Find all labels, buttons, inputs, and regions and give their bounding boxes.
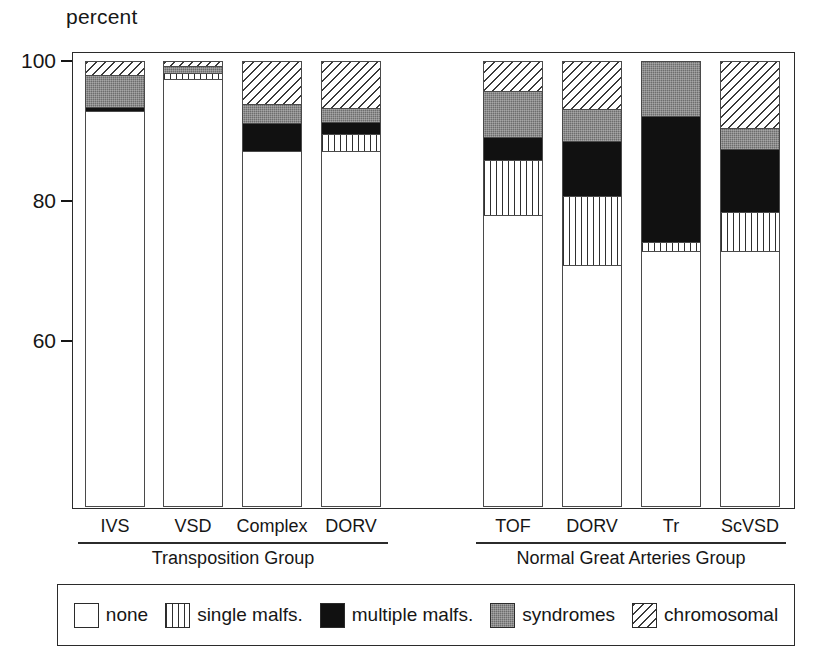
bar-segment-syndromes: [563, 109, 621, 141]
category-label-scvsd-7: ScVSD: [708, 516, 792, 537]
bar-segment-none: [563, 265, 621, 506]
bar-segment-syndromes: [243, 104, 301, 123]
legend-swatch-multiple-icon: [320, 603, 345, 628]
y-axis-title: percent: [66, 5, 137, 29]
legend-label: none: [106, 604, 148, 626]
bar-segment-none: [642, 251, 700, 506]
bar-segment-chromosomal: [322, 62, 380, 108]
legend-swatch-syndromes-icon: [490, 603, 515, 628]
y-tick-mark: [61, 340, 72, 342]
legend-label: chromosomal: [664, 604, 778, 626]
bar-segment-multiple: [563, 141, 621, 196]
bar-segment-multiple: [322, 122, 380, 134]
legend-swatch-none-icon: [74, 603, 99, 628]
y-tick-80: 80: [33, 189, 72, 213]
legend-swatch-chromosomal-icon: [632, 603, 657, 628]
group-label-0: Transposition Group: [78, 548, 388, 569]
bar-segment-none: [86, 111, 144, 506]
legend-item-syndromes[interactable]: syndromes: [490, 603, 615, 628]
y-axis: 100 80 60: [0, 0, 72, 670]
y-tick-mark: [61, 60, 72, 62]
bar-segment-chromosomal: [243, 62, 301, 104]
bar-segment-single: [563, 196, 621, 265]
legend: none single malfs. multiple malfs. syndr…: [57, 584, 795, 646]
group-label-1: Normal Great Arteries Group: [476, 548, 786, 569]
legend-swatch-single-icon: [165, 603, 190, 628]
bar-complex-2[interactable]: [242, 61, 302, 507]
category-label-ivs-0: IVS: [73, 516, 157, 537]
group-rule-1: [476, 542, 786, 544]
legend-item-multiple-malfs[interactable]: multiple malfs.: [320, 603, 473, 628]
category-label-tr-6: Tr: [629, 516, 713, 537]
bar-segment-chromosomal: [86, 62, 144, 75]
bar-dorv-3[interactable]: [321, 61, 381, 507]
bar-segment-chromosomal: [484, 62, 542, 91]
bar-segment-single: [721, 212, 779, 251]
category-label-vsd-1: VSD: [151, 516, 235, 537]
bar-segment-multiple: [642, 116, 700, 242]
y-tick-mark: [61, 200, 72, 202]
bar-tof-4[interactable]: [483, 61, 543, 507]
bar-ivs-0[interactable]: [85, 61, 145, 507]
y-tick-label: 100: [21, 49, 56, 73]
y-tick-60: 60: [33, 329, 72, 353]
bar-segment-syndromes: [642, 62, 700, 116]
group-rule-0: [78, 542, 388, 544]
chart-root: percent 100 80 60 IVSVSDComplexDORVTOFDO…: [0, 0, 826, 670]
bar-segment-syndromes: [86, 75, 144, 107]
category-label-tof-4: TOF: [471, 516, 555, 537]
bar-segment-multiple: [484, 137, 542, 160]
bar-segment-chromosomal: [563, 62, 621, 109]
bar-segment-single: [484, 160, 542, 215]
bar-segment-syndromes: [484, 91, 542, 137]
bar-segment-multiple: [721, 149, 779, 212]
bar-segment-none: [243, 151, 301, 506]
bar-segment-chromosomal: [721, 62, 779, 128]
bar-segment-syndromes: [721, 128, 779, 149]
bar-segment-none: [322, 151, 380, 506]
legend-label: multiple malfs.: [352, 604, 473, 626]
bar-tr-6[interactable]: [641, 61, 701, 507]
y-tick-label: 60: [33, 329, 56, 353]
bar-segment-single: [322, 134, 380, 152]
bar-segment-single: [642, 242, 700, 250]
legend-item-single-malfs[interactable]: single malfs.: [165, 603, 303, 628]
bar-segment-none: [164, 79, 222, 506]
legend-item-chromosomal[interactable]: chromosomal: [632, 603, 778, 628]
category-label-complex-2: Complex: [230, 516, 314, 537]
y-tick-100: 100: [21, 49, 72, 73]
y-tick-label: 80: [33, 189, 56, 213]
bar-scvsd-7[interactable]: [720, 61, 780, 507]
bar-segment-none: [721, 251, 779, 506]
category-label-dorv-3: DORV: [309, 516, 393, 537]
legend-label: single malfs.: [197, 604, 303, 626]
legend-item-none[interactable]: none: [74, 603, 148, 628]
category-label-dorv-5: DORV: [550, 516, 634, 537]
bar-segment-syndromes: [322, 108, 380, 122]
bar-segment-multiple: [243, 123, 301, 152]
bar-vsd-1[interactable]: [163, 61, 223, 507]
bar-dorv-5[interactable]: [562, 61, 622, 507]
bar-segment-none: [484, 215, 542, 506]
legend-label: syndromes: [522, 604, 615, 626]
